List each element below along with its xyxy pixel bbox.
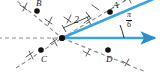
origin-point <box>59 35 65 41</box>
point-C <box>38 47 44 53</box>
point-label-a: A <box>113 1 119 10</box>
dashed-line-b-d-extension <box>62 38 146 72</box>
point-A <box>107 9 113 15</box>
angle-arc <box>120 25 124 38</box>
segment-length-label: 2 <box>74 15 79 25</box>
point-B <box>34 8 40 14</box>
angle-numerator: π <box>126 11 132 19</box>
diagram-svg <box>0 0 163 72</box>
angle-measure-label: π 6 <box>126 11 132 29</box>
point-label-b: B <box>36 0 42 8</box>
point-label-d: D <box>106 55 113 64</box>
point-D <box>105 47 111 53</box>
point-label-c: C <box>41 55 47 64</box>
angle-denominator: 6 <box>126 21 132 29</box>
figure-canvas: A B C D 2 π 6 <box>0 0 163 72</box>
